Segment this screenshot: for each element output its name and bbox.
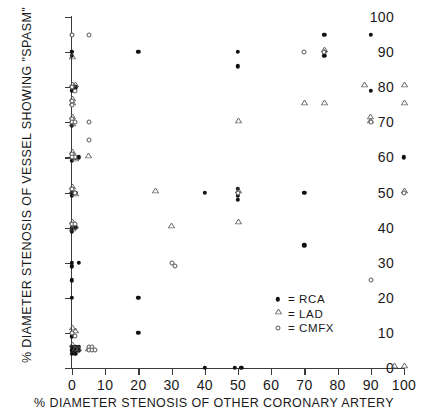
y-axis-tick-label: 40 — [378, 220, 394, 236]
plot-area: 0102030405060708090100010203040506070809… — [72, 17, 404, 368]
data-point-lad — [152, 190, 158, 195]
data-point-lad — [391, 366, 397, 371]
data-point-rca — [136, 331, 140, 335]
y-axis-tick — [65, 368, 72, 369]
data-point-rca — [236, 50, 240, 54]
data-point-rca — [232, 366, 236, 370]
data-point-cmfx — [70, 102, 75, 107]
data-point-cmfx — [73, 120, 78, 125]
data-point-cmfx — [172, 264, 177, 269]
data-point-cmfx — [73, 88, 78, 93]
data-point-lad — [69, 57, 75, 62]
data-point-rca — [76, 260, 80, 264]
data-point-rca — [236, 197, 240, 201]
data-point-lad — [361, 85, 367, 90]
x-axis-tick-label: 20 — [130, 377, 146, 393]
y-axis-tick-label: 50 — [378, 185, 394, 201]
data-point-lad — [76, 348, 82, 353]
y-axis-tick — [65, 17, 72, 18]
legend-marker — [276, 326, 281, 331]
x-axis-tick-label: 40 — [197, 377, 213, 393]
data-point-cmfx — [322, 50, 327, 55]
y-axis-tick-label: 100 — [370, 9, 394, 25]
data-point-lad — [235, 222, 241, 227]
x-axis-tick — [304, 368, 305, 375]
x-axis-tick-label: 80 — [330, 377, 346, 393]
data-point-rca — [203, 190, 207, 194]
y-axis-tick-label: 30 — [378, 255, 394, 271]
data-point-cmfx — [73, 334, 78, 339]
data-point-cmfx — [86, 32, 91, 37]
data-point-lad — [86, 155, 92, 160]
x-axis-tick — [371, 368, 372, 375]
data-point-lad — [401, 366, 407, 371]
data-point-rca — [302, 190, 306, 194]
y-axis-label: % DIAMETER STENOSIS OF VESSEL SHOWING "S… — [20, 5, 34, 365]
y-axis-tick-label: 20 — [378, 290, 394, 306]
data-point-rca — [136, 296, 140, 300]
y-axis-tick-label: 80 — [378, 79, 394, 95]
y-axis-tick-label: 10 — [378, 325, 394, 341]
data-point-lad — [401, 102, 407, 107]
x-axis-tick-label: 60 — [263, 377, 279, 393]
x-axis-tick-label: 90 — [363, 377, 379, 393]
data-point-rca — [302, 243, 306, 247]
data-point-rca — [402, 155, 406, 159]
data-point-cmfx — [93, 348, 98, 353]
legend-label: = CMFX — [288, 321, 334, 336]
data-point-rca — [236, 64, 240, 68]
data-point-cmfx — [236, 190, 241, 195]
data-point-lad — [301, 102, 307, 107]
data-point-rca — [70, 278, 74, 282]
y-axis-tick-label: 70 — [378, 114, 394, 130]
x-axis-tick-label: 30 — [164, 377, 180, 393]
y-axis-tick-label: 90 — [378, 44, 394, 60]
data-point-rca — [239, 366, 243, 370]
data-point-lad — [321, 102, 327, 107]
legend-label: = RCA — [288, 292, 325, 307]
data-point-lad — [69, 229, 75, 234]
legend-label: = LAD — [288, 307, 323, 322]
data-point-cmfx — [70, 155, 75, 160]
data-point-cmfx — [73, 190, 78, 195]
x-axis-tick-label: 10 — [97, 377, 113, 393]
data-point-cmfx — [70, 32, 75, 37]
x-axis-tick-label: 70 — [296, 377, 312, 393]
x-axis-tick-label: 50 — [230, 377, 246, 393]
x-axis-tick-label: 0 — [68, 377, 76, 393]
data-point-rca — [136, 50, 140, 54]
x-axis-label: % DIAMETER STENOSIS OF OTHER CORONARY AR… — [0, 396, 428, 410]
data-point-cmfx — [302, 50, 307, 55]
data-point-cmfx — [86, 137, 91, 142]
data-point-lad — [401, 85, 407, 90]
data-point-cmfx — [368, 278, 373, 283]
data-point-lad — [169, 225, 175, 230]
data-point-rca — [70, 264, 74, 268]
y-axis-tick-label: 60 — [378, 149, 394, 165]
x-axis-tick — [138, 368, 139, 375]
scatter-plot-figure: % DIAMETER STENOSIS OF VESSEL SHOWING "S… — [0, 0, 428, 420]
data-point-cmfx — [402, 190, 407, 195]
legend-marker — [275, 311, 281, 316]
data-point-rca — [70, 296, 74, 300]
data-point-rca — [322, 32, 326, 36]
data-point-rca — [369, 32, 373, 36]
x-axis-tick — [105, 368, 106, 375]
data-point-cmfx — [73, 222, 78, 227]
data-point-cmfx — [368, 120, 373, 125]
x-axis-tick-label: 100 — [392, 377, 416, 393]
x-axis-tick — [338, 368, 339, 375]
data-point-lad — [235, 120, 241, 125]
data-point-rca — [203, 366, 207, 370]
x-axis-tick — [72, 368, 73, 375]
data-point-cmfx — [86, 120, 91, 125]
x-axis-tick — [172, 368, 173, 375]
x-axis-tick — [271, 368, 272, 375]
data-point-rca — [369, 89, 373, 93]
